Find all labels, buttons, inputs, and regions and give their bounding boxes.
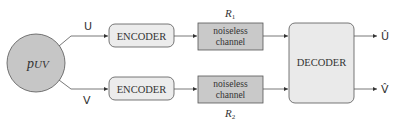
block-diagram: pUV U V ENCODER ENCODER noiseless channe… bbox=[0, 0, 400, 126]
rate-r2-label: R2 bbox=[224, 107, 236, 121]
encoder-2-label: ENCODER bbox=[117, 84, 167, 95]
channel-1-line2: channel bbox=[216, 37, 246, 47]
input-u-connector: U bbox=[59, 20, 108, 46]
channel-1-line1: noiseless bbox=[213, 26, 248, 36]
channel-2: noiseless channel R2 bbox=[198, 76, 263, 121]
source-label: pUV bbox=[26, 56, 50, 71]
channel-2-line1: noiseless bbox=[213, 79, 248, 89]
input-v-label: V bbox=[83, 94, 91, 107]
source-node: pUV bbox=[7, 34, 65, 92]
encoder-1: ENCODER bbox=[109, 24, 174, 47]
channel-1: noiseless channel R1 bbox=[198, 7, 263, 50]
output-u-hat-label: Û bbox=[381, 30, 389, 43]
encoder-2: ENCODER bbox=[109, 77, 174, 100]
input-u-label: U bbox=[84, 20, 92, 33]
channel-2-line2: channel bbox=[216, 90, 246, 100]
rate-r1-label: R1 bbox=[224, 7, 236, 21]
input-v-connector: V bbox=[59, 80, 108, 107]
output-v-hat-label: V̂ bbox=[381, 83, 389, 96]
decoder: DECODER bbox=[289, 23, 354, 103]
encoder-1-label: ENCODER bbox=[117, 31, 167, 42]
decoder-label: DECODER bbox=[297, 57, 347, 68]
